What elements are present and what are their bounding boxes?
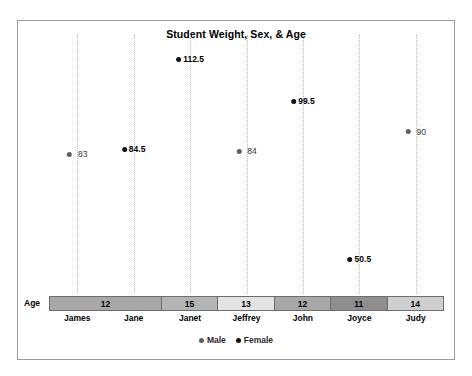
data-point-value-label: 90 <box>417 127 426 137</box>
student-name-label: Judy <box>388 313 444 327</box>
age-axis-row: Age 121513121114 <box>24 296 444 311</box>
data-point-marker-male <box>67 152 72 157</box>
chart-frame: Student Weight, Sex, & Age 8384.5112.584… <box>17 20 455 360</box>
data-point[interactable]: 50.5 <box>348 254 372 264</box>
student-name-label: James <box>49 313 105 327</box>
data-point[interactable]: 84 <box>236 146 256 156</box>
legend-label: Female <box>244 335 273 345</box>
age-bar: 121513121114 <box>49 296 444 311</box>
student-name-label: Jane <box>105 313 161 327</box>
chart-legend: MaleFemale <box>18 335 454 345</box>
drop-line <box>416 35 417 293</box>
data-point-marker-female <box>348 257 353 262</box>
drop-line <box>247 35 248 293</box>
data-point-value-label: 112.5 <box>183 54 204 64</box>
age-cell: 15 <box>162 297 218 310</box>
data-point-marker-female <box>122 147 127 152</box>
data-point-value-label: 83 <box>78 149 87 159</box>
drop-line <box>190 35 191 293</box>
student-name-label: Joyce <box>331 313 387 327</box>
drop-line <box>303 35 304 293</box>
data-point-marker-female <box>291 99 296 104</box>
student-name-label: Jeffrey <box>218 313 274 327</box>
data-point[interactable]: 83 <box>67 149 87 159</box>
age-cell: 12 <box>275 297 331 310</box>
data-point-marker-male <box>236 149 241 154</box>
plot-area: 8384.5112.58499.550.590 <box>49 35 444 293</box>
data-point-marker-female <box>176 57 181 62</box>
legend-item-female[interactable]: Female <box>236 335 273 345</box>
student-name-row: JamesJaneJanetJeffreyJohnJoyceJudy <box>49 313 444 327</box>
legend-marker-icon <box>236 338 241 343</box>
data-point-value-label: 50.5 <box>355 254 372 264</box>
drop-line <box>77 35 78 293</box>
student-name-label: Janet <box>162 313 218 327</box>
data-point-value-label: 84 <box>247 146 256 156</box>
data-point-marker-male <box>406 129 411 134</box>
legend-label: Male <box>207 335 226 345</box>
drop-line <box>134 35 135 293</box>
student-name-label: John <box>275 313 331 327</box>
data-point-value-label: 84.5 <box>129 144 146 154</box>
legend-item-male[interactable]: Male <box>199 335 226 345</box>
data-point[interactable]: 112.5 <box>176 54 204 64</box>
legend-marker-icon <box>199 338 204 343</box>
data-point[interactable]: 84.5 <box>122 144 146 154</box>
age-cell: 13 <box>218 297 274 310</box>
age-cell: 11 <box>331 297 387 310</box>
data-point-value-label: 99.5 <box>298 96 315 106</box>
data-point[interactable]: 99.5 <box>291 96 315 106</box>
age-cell: 14 <box>388 297 443 310</box>
age-axis-label: Age <box>24 296 49 311</box>
age-cell: 12 <box>50 297 162 310</box>
data-point[interactable]: 90 <box>406 127 426 137</box>
